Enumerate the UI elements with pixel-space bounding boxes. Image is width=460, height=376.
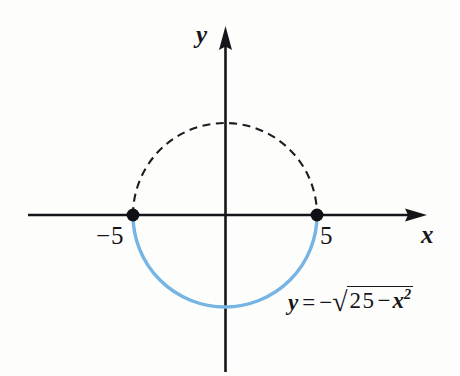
radicand-variable: x [393,288,405,313]
radicand-operator: − [378,288,391,313]
x-axis-arrowhead [405,209,427,222]
radicand-exponent: 2 [404,286,411,302]
point-marker-right [311,209,324,222]
equation-equals-sign: = [302,291,315,314]
equation-lhs: y [288,291,298,314]
plot-canvas [0,0,460,376]
radicand: 25−x2 [347,286,414,312]
math-figure: y x −5 5 y = − √ 25−x2 [0,0,460,376]
tick-label-positive-five: 5 [320,223,333,248]
y-axis-arrowhead [219,26,232,50]
radical-expression: √ 25−x2 [332,287,413,315]
equation-minus-sign: − [319,291,332,314]
axis-label-y: y [196,22,207,47]
radicand-number: 25 [350,288,376,313]
tick-label-negative-five: −5 [96,223,125,248]
equation-annotation: y = − √ 25−x2 [288,287,413,315]
axis-label-x: x [421,222,434,247]
point-marker-left [127,209,140,222]
radical-sign-icon: √ [332,288,347,316]
